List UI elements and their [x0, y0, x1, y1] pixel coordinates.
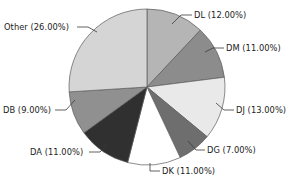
pie-label-da: DA (11.00%)	[30, 148, 83, 156]
pie-label-other: Other (26.00%)	[4, 23, 69, 31]
pie-label-db: DB (9.00%)	[3, 106, 51, 114]
pie-label-dg: DG (7.00%)	[207, 146, 256, 154]
pie-chart: DL (12.00%) DM (11.00%) DJ (13.00%) DG (…	[0, 0, 297, 185]
pie-label-dm: DM (11.00%)	[226, 44, 281, 52]
pie-label-dl: DL (12.00%)	[194, 11, 246, 19]
pie-slices	[69, 9, 225, 165]
pie-label-dk: DK (11.00%)	[162, 167, 215, 175]
pie-label-dj: DJ (13.00%)	[236, 106, 286, 114]
pie-slice-other[interactable]	[69, 9, 147, 92]
